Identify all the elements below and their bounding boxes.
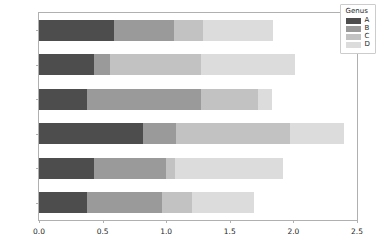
y-tick-mark: [36, 168, 39, 169]
x-tick-label: 1.0: [160, 228, 172, 236]
bar-segment-c: [176, 123, 289, 144]
bar-segment-b: [87, 192, 162, 213]
bar-segment-c: [201, 89, 258, 110]
bar-segment-d: [201, 54, 295, 75]
bar-segment-d: [203, 20, 273, 41]
bar-segment-a: [39, 192, 87, 213]
bar-segment-a: [39, 158, 94, 179]
y-tick-mark: [36, 99, 39, 100]
legend-swatch-icon: [346, 34, 361, 40]
x-tick-mark: [230, 220, 231, 223]
bar-segment-b: [143, 123, 176, 144]
legend-swatch-icon: [346, 18, 361, 24]
bar-segment-a: [39, 89, 87, 110]
legend-entry-list: ABCD: [346, 17, 370, 48]
x-tick-label: 1.5: [224, 228, 236, 236]
bar-row: [39, 89, 357, 110]
legend-entry-c[interactable]: C: [346, 33, 370, 40]
bar-segment-c: [162, 192, 191, 213]
x-tick-mark: [357, 220, 358, 223]
plot-area: onetwothreefourfivesix0.00.51.01.52.02.5: [38, 12, 358, 221]
legend-title: Genus: [346, 8, 370, 15]
legend-swatch-icon: [346, 26, 361, 32]
x-tick-label: 2.5: [351, 228, 363, 236]
legend-label: C: [365, 33, 370, 40]
bar-row: [39, 20, 357, 41]
bar-segment-b: [87, 89, 200, 110]
bar-segment-c: [166, 158, 175, 179]
legend-label: D: [365, 41, 370, 48]
bar-segment-b: [94, 158, 167, 179]
legend: Genus ABCD: [340, 4, 376, 54]
bar-segment-d: [175, 158, 283, 179]
x-tick-label: 2.0: [287, 228, 299, 236]
legend-entry-b[interactable]: B: [346, 25, 370, 32]
bar-row: [39, 192, 357, 213]
y-tick-mark: [36, 65, 39, 66]
bar-segment-b: [114, 20, 174, 41]
bar-row: [39, 123, 357, 144]
bar-segment-c: [174, 20, 203, 41]
bar-segment-d: [290, 123, 345, 144]
bar-row: [39, 54, 357, 75]
figure-canvas: onetwothreefourfivesix0.00.51.01.52.02.5…: [0, 0, 380, 244]
legend-entry-d[interactable]: D: [346, 41, 370, 48]
bar-row: [39, 158, 357, 179]
x-tick-mark: [166, 220, 167, 223]
y-tick-mark: [36, 30, 39, 31]
bar-segment-b: [94, 54, 111, 75]
x-tick-label: 0.0: [33, 228, 45, 236]
legend-entry-a[interactable]: A: [346, 17, 370, 24]
x-tick-mark: [103, 220, 104, 223]
x-tick-mark: [293, 220, 294, 223]
x-tick-label: 0.5: [97, 228, 109, 236]
bar-segment-d: [192, 192, 254, 213]
bar-segment-a: [39, 54, 94, 75]
bar-segment-a: [39, 123, 143, 144]
bar-segment-a: [39, 20, 114, 41]
bar-segment-c: [110, 54, 200, 75]
legend-label: A: [365, 17, 370, 24]
legend-swatch-icon: [346, 42, 361, 48]
y-tick-mark: [36, 203, 39, 204]
x-tick-mark: [39, 220, 40, 223]
bar-segment-d: [258, 89, 272, 110]
y-tick-mark: [36, 134, 39, 135]
legend-label: B: [365, 25, 370, 32]
